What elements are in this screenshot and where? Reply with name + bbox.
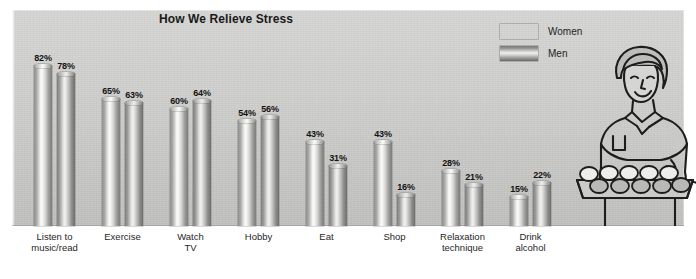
- bar-cap: [329, 164, 347, 168]
- category-label-0: Listen to music/read: [24, 231, 85, 253]
- bar-women-7: 15%: [510, 197, 528, 226]
- chart-legend: Women Men: [500, 24, 582, 68]
- stress-relief-bar-chart-figure: How We Relieve Stress 82%78%65%63%60%64%…: [0, 0, 696, 279]
- bar-cap: [57, 72, 75, 76]
- bar-value-label: 65%: [102, 86, 120, 96]
- bar-value-label: 21%: [465, 172, 483, 182]
- bar-cap: [193, 99, 211, 103]
- bar-cap: [533, 181, 551, 185]
- bar-cap: [374, 140, 392, 144]
- bar-men-5: 16%: [397, 195, 415, 226]
- bar-women-1: 65%: [102, 99, 120, 226]
- bar-value-label: 43%: [374, 129, 392, 139]
- bar-men-2: 64%: [193, 101, 211, 226]
- bar-women-4: 43%: [306, 142, 324, 226]
- legend-item-women: Women: [500, 24, 582, 39]
- bar-cap: [125, 101, 143, 105]
- bar-cap: [510, 195, 528, 199]
- bar-cap: [34, 64, 52, 68]
- bar-value-label: 28%: [442, 158, 460, 168]
- bar-value-label: 31%: [329, 153, 347, 163]
- bar-women-5: 43%: [374, 142, 392, 226]
- chart-title: How We Relieve Stress: [106, 12, 346, 26]
- legend-item-men: Men: [500, 46, 582, 61]
- bar-men-1: 63%: [125, 103, 143, 226]
- bar-men-0: 78%: [57, 74, 75, 226]
- category-label-1: Exercise: [92, 231, 153, 242]
- category-label-5: Shop: [364, 231, 425, 242]
- bar-men-4: 31%: [329, 166, 347, 226]
- plot-area: 82%78%65%63%60%64%54%56%43%31%43%16%28%2…: [12, 10, 684, 226]
- bar-value-label: 16%: [397, 182, 415, 192]
- category-label-6: Relaxation technique: [432, 231, 493, 253]
- bar-women-3: 54%: [238, 121, 256, 226]
- legend-swatch-men-icon: [500, 46, 538, 61]
- category-label-2: Watch TV: [160, 231, 221, 253]
- bar-cap: [465, 183, 483, 187]
- bar-value-label: 56%: [261, 104, 279, 114]
- bar-value-label: 64%: [193, 88, 211, 98]
- category-label-3: Hobby: [228, 231, 289, 242]
- bar-value-label: 43%: [306, 129, 324, 139]
- bar-cap: [170, 107, 188, 111]
- category-label-4: Eat: [296, 231, 357, 242]
- bar-women-6: 28%: [442, 171, 460, 226]
- bar-men-7: 22%: [533, 183, 551, 226]
- bar-men-3: 56%: [261, 117, 279, 226]
- bar-cap: [442, 169, 460, 173]
- bar-cap: [261, 115, 279, 119]
- legend-label-men: Men: [548, 48, 567, 59]
- bar-cap: [397, 193, 415, 197]
- legend-swatch-women-icon: [500, 24, 538, 39]
- bar-cap: [238, 119, 256, 123]
- bar-women-2: 60%: [170, 109, 188, 226]
- bar-value-label: 60%: [170, 96, 188, 106]
- bar-men-6: 21%: [465, 185, 483, 226]
- bar-cap: [306, 140, 324, 144]
- bar-women-0: 82%: [34, 66, 52, 226]
- bar-value-label: 54%: [238, 108, 256, 118]
- bar-value-label: 82%: [34, 53, 52, 63]
- bar-value-label: 63%: [125, 90, 143, 100]
- bar-value-label: 22%: [533, 170, 551, 180]
- category-label-7: Drink alcohol: [500, 231, 561, 253]
- bar-cap: [102, 97, 120, 101]
- bar-value-label: 15%: [510, 184, 528, 194]
- bar-value-label: 78%: [57, 61, 75, 71]
- legend-label-women: Women: [548, 26, 582, 37]
